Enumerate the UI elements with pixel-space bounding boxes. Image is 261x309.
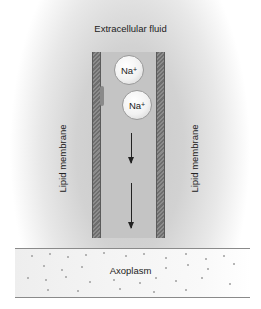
sodium-ion-2: Na+ <box>122 90 152 120</box>
particle-dot <box>223 255 225 257</box>
particle-dot <box>113 279 115 281</box>
particle-dot <box>27 277 29 279</box>
particle-dot <box>229 283 231 285</box>
particle-dot <box>49 253 51 255</box>
down-arrow-icon <box>131 133 132 163</box>
particle-dot <box>153 291 155 293</box>
particle-dot <box>65 276 67 278</box>
particle-dot <box>175 280 177 282</box>
particle-dot <box>45 279 47 281</box>
particle-dot <box>119 288 121 290</box>
ion-charge: + <box>141 101 145 108</box>
particle-dot <box>205 258 207 260</box>
right-membrane-wall <box>156 52 165 238</box>
particle-dot <box>89 281 91 283</box>
particle-dot <box>139 282 141 284</box>
extracellular-fluid-label: Extracellular fluid <box>0 23 261 34</box>
particle-dot <box>85 254 87 256</box>
particle-dot <box>31 255 33 257</box>
particle-dot <box>155 277 157 279</box>
particle-dot <box>185 253 187 255</box>
right-lipid-membrane-label: Lipid membrane <box>189 104 200 214</box>
particle-dot <box>143 253 145 255</box>
channel-gate-protein <box>100 86 104 106</box>
particle-dot <box>165 257 167 259</box>
ion-symbol: Na <box>121 65 133 76</box>
down-arrow-icon <box>131 183 132 228</box>
particle-dot <box>201 277 203 279</box>
particle-dot <box>67 256 69 258</box>
particle-dot <box>77 290 79 292</box>
ion-charge: + <box>133 66 137 73</box>
left-membrane-wall <box>92 52 101 238</box>
left-lipid-membrane-label: Lipid membrane <box>57 104 68 214</box>
particle-dot <box>125 255 127 257</box>
particle-dot <box>47 289 49 291</box>
axoplasm-label: Axoplasm <box>0 265 261 276</box>
sodium-ion-1: Na+ <box>114 55 144 85</box>
particle-dot <box>103 252 105 254</box>
particle-dot <box>185 289 187 291</box>
ion-symbol: Na <box>129 100 141 111</box>
